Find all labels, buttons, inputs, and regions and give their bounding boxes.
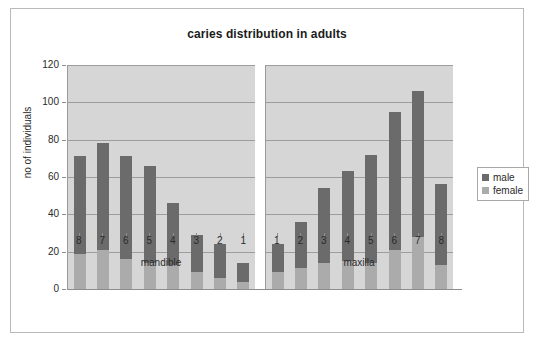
stacked-bar[interactable] — [214, 65, 226, 289]
group-label-maxilla: maxilla — [265, 257, 453, 268]
x-tick-label: 2 — [294, 235, 306, 251]
stacked-bar[interactable] — [389, 65, 401, 289]
plot-area — [67, 65, 462, 289]
bar-segment-male — [412, 91, 424, 237]
y-tick-label: 20 — [29, 247, 59, 257]
stacked-bar[interactable] — [318, 65, 330, 289]
stacked-bar[interactable] — [97, 65, 109, 289]
bar-segment-male — [389, 112, 401, 250]
legend-item-male: male — [482, 171, 523, 184]
bar-segment-female — [214, 278, 226, 289]
stacked-bar[interactable] — [167, 65, 179, 289]
x-tick-labels-maxilla: 12345678 — [265, 235, 453, 251]
x-tick-label: 3 — [318, 235, 330, 251]
legend-swatch-female — [482, 187, 489, 194]
y-tick-mark — [62, 102, 66, 103]
group-label-mandible: mandible — [67, 257, 255, 268]
stacked-bar[interactable] — [342, 65, 354, 289]
legend-item-female: female — [482, 184, 523, 197]
y-tick-label: 100 — [29, 97, 59, 107]
stacked-bar[interactable] — [144, 65, 156, 289]
y-tick-label: 80 — [29, 135, 59, 145]
x-tick-label: 7 — [96, 235, 108, 251]
panel-maxilla — [265, 65, 453, 289]
bar-group — [68, 65, 255, 289]
x-tick-label: 4 — [341, 235, 353, 251]
y-tick-mark — [62, 140, 66, 141]
x-tick-label: 2 — [214, 235, 226, 251]
stacked-bar[interactable] — [365, 65, 377, 289]
x-tick-label: 8 — [435, 235, 447, 251]
stacked-bar[interactable] — [435, 65, 447, 289]
bar-segment-male — [318, 188, 330, 263]
bar-segment-female — [237, 282, 249, 289]
y-tick-label: 0 — [29, 284, 59, 294]
x-tick-label: 4 — [167, 235, 179, 251]
stacked-bar[interactable] — [74, 65, 86, 289]
x-tick-label: 5 — [143, 235, 155, 251]
legend-label-male: male — [493, 172, 515, 183]
x-tick-label: 1 — [271, 235, 283, 251]
x-tick-label: 7 — [412, 235, 424, 251]
bar-segment-female — [272, 272, 284, 289]
y-tick-mark — [62, 289, 66, 290]
bar-segment-female — [389, 250, 401, 289]
chart-title: caries distribution in adults — [11, 27, 523, 41]
legend-swatch-male — [482, 174, 489, 181]
x-tick-label: 1 — [237, 235, 249, 251]
y-tick-label: 60 — [29, 172, 59, 182]
x-tick-labels-mandible: 87654321 — [67, 235, 255, 251]
bar-segment-female — [97, 250, 109, 289]
bar-segment-female — [191, 272, 203, 289]
y-tick-mark — [62, 65, 66, 66]
bar-segment-female — [295, 268, 307, 289]
bar-group — [266, 65, 453, 289]
stacked-bar[interactable] — [237, 65, 249, 289]
stacked-bar[interactable] — [295, 65, 307, 289]
x-tick-label: 3 — [190, 235, 202, 251]
stacked-bar[interactable] — [191, 65, 203, 289]
stacked-bar[interactable] — [272, 65, 284, 289]
chart-legend: male female — [477, 167, 529, 201]
panel-mandible — [67, 65, 255, 289]
y-tick-mark — [62, 252, 66, 253]
x-tick-label: 5 — [365, 235, 377, 251]
x-tick-label: 8 — [73, 235, 85, 251]
legend-label-female: female — [493, 185, 523, 196]
stacked-bar[interactable] — [412, 65, 424, 289]
y-tick-mark — [62, 177, 66, 178]
bar-segment-male — [435, 184, 447, 264]
chart-frame: caries distribution in adults no of indi… — [10, 8, 524, 333]
bar-segment-female — [167, 265, 179, 289]
stacked-bar[interactable] — [120, 65, 132, 289]
x-tick-label: 6 — [120, 235, 132, 251]
y-tick-label: 40 — [29, 209, 59, 219]
y-tick-label: 120 — [29, 60, 59, 70]
x-axis-line — [67, 289, 462, 290]
bar-segment-female — [435, 265, 447, 289]
y-tick-mark — [62, 214, 66, 215]
x-tick-label: 6 — [388, 235, 400, 251]
